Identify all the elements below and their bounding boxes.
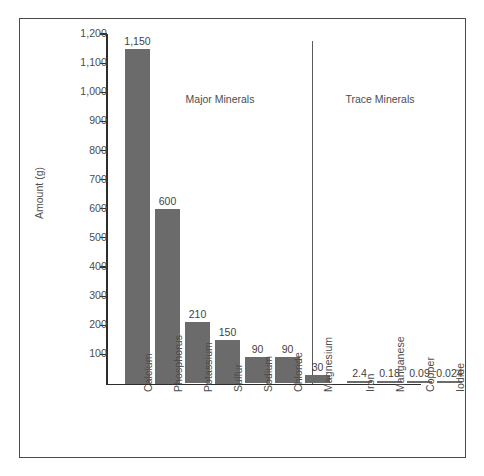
x-axis-label-iodide: Iodide [454,362,466,391]
y-axis-tick-label: 700 [61,173,107,185]
y-axis-tick-label: 500 [61,231,107,243]
x-axis-label-calcium: Calcium [142,353,154,392]
bar-value-label-sulfur: 150 [206,326,249,338]
bar-calcium[interactable] [125,49,150,384]
y-axis-tick-label: 100 [61,347,107,359]
x-axis-label-potassium: Potassium [202,342,214,392]
y-axis-tick-label: 1,100 [61,56,107,68]
y-axis-tick-label: 1,200 [61,27,107,39]
x-axis-label-sulfur: Sulfur [232,363,244,391]
x-axis-label-sodium: Sodium [262,355,274,391]
x-axis-label-phosphorus: Phosphorus [172,334,184,391]
y-axis-title: Amount (g) [33,148,45,238]
y-axis-tick-label: 600 [61,202,107,214]
group-label-major-minerals: Major Minerals [160,93,280,105]
y-axis-tick-label: 1,000 [61,85,107,97]
y-axis-tick-label: 300 [61,289,107,301]
bar-value-label-potassium: 210 [176,308,219,320]
group-divider-line [312,41,313,384]
group-label-trace-minerals: Trace Minerals [320,93,440,105]
y-axis-tick-label: 200 [61,318,107,330]
chart-plot-area: Amount (g) 1,2001,1001,00090080070060050… [20,19,465,457]
y-axis-tick-label: 900 [61,114,107,126]
y-axis-tick-label: 800 [61,144,107,156]
x-axis-label-manganese: Manganese [394,336,406,392]
x-axis-label-magnesium: Magnesium [322,336,334,391]
figure-frame: Amount (g) 1,2001,1001,00090080070060050… [19,18,466,458]
bar-value-label-phosphorus: 600 [146,195,189,207]
y-axis-tick-label: 400 [61,260,107,272]
bar-value-label-calcium: 1,150 [116,35,159,47]
